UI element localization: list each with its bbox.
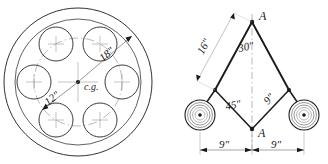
hole [39, 27, 73, 61]
flywheel-drawing: c.g. 18" 12" [0, 0, 164, 164]
linkage-drawing: A A 30" 45" 9" 16" [164, 0, 328, 164]
hole [83, 103, 117, 137]
upper-left-link-dimension-label: 16" [194, 36, 212, 56]
right-pin-joint [287, 88, 291, 92]
flywheel-figure: c.g. 18" 12" [0, 0, 164, 164]
right-roller [289, 100, 319, 130]
hole [105, 65, 139, 99]
figure-sheet: c.g. 18" 12" [0, 0, 328, 164]
base-dimension-group: 9" 9" [200, 132, 304, 155]
arrowhead-icon [200, 148, 207, 152]
arrowhead-icon [245, 148, 252, 152]
base-dimension-left-label: 9" [219, 138, 230, 150]
cg-label: c.g. [84, 81, 98, 92]
bolt-circle-radius-dimension: 12" [42, 82, 78, 110]
bottom-pin-joint [250, 127, 254, 131]
lower-angle-label: 45" [224, 97, 242, 112]
bolt-circle-radius-dimension-label: 12" [42, 88, 62, 107]
outer-radius-dimension: 18" [78, 36, 132, 82]
base-dimension-right-label: 9" [271, 138, 282, 150]
arrowhead-icon [297, 148, 304, 152]
left-roller [185, 100, 215, 130]
linkage-figure: A A 30" 45" 9" 16" [164, 0, 328, 164]
arrowhead-icon [252, 148, 259, 152]
apex-angle-label: 30" [236, 39, 255, 54]
lower-right-link-dimension-label: 9" [261, 91, 277, 107]
bottom-vertex-label: A [257, 126, 266, 140]
apex-vertex-label: A [258, 9, 267, 23]
upper-left-link [215, 22, 252, 90]
upper-right-link [252, 22, 289, 90]
